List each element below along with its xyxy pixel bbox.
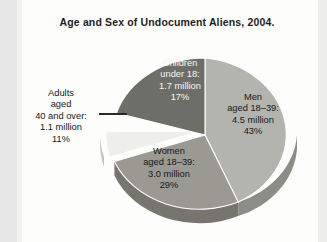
pie-label-women-line-2: aged 18–39: bbox=[124, 157, 214, 168]
pie-label-children-line-4: 17% bbox=[140, 92, 220, 103]
pie-label-children: Children under 18: 1.7 million 17% bbox=[140, 58, 220, 104]
pie-label-men-line-1: Men bbox=[213, 92, 293, 103]
pie-label-adults-line-2: aged bbox=[22, 99, 100, 110]
chart-screenshot: Age and Sex of Undocument Aliens, 2004. … bbox=[0, 0, 327, 242]
pie-label-adults-line-5: 11% bbox=[22, 134, 100, 145]
pie-label-adults-line-3: 40 and over: bbox=[22, 111, 100, 122]
pie-label-men-line-3: 4.5 million bbox=[213, 115, 293, 126]
pie-label-women-line-4: 29% bbox=[124, 180, 214, 191]
adults-leader-line bbox=[99, 113, 127, 115]
pie-label-adults-line-1: Adults bbox=[22, 88, 100, 99]
pie-label-adults-line-4: 1.1 million bbox=[22, 122, 100, 133]
pie-side-adults bbox=[100, 132, 104, 167]
pie-label-children-line-1: Children bbox=[140, 58, 220, 69]
pie-label-women-line-3: 3.0 million bbox=[124, 169, 214, 180]
pie-label-men: Men aged 18–39: 4.5 million 43% bbox=[213, 92, 293, 138]
pie-label-women: Women aged 18–39: 3.0 million 29% bbox=[124, 146, 214, 192]
pie-label-adults: Adults aged 40 and over: 1.1 million 11% bbox=[22, 88, 100, 145]
pie-label-men-line-2: aged 18–39: bbox=[213, 103, 293, 114]
pie-label-men-line-4: 43% bbox=[213, 126, 293, 137]
pie-label-women-line-1: Women bbox=[124, 146, 214, 157]
pie-label-children-line-2: under 18: bbox=[140, 69, 220, 80]
pie-label-children-line-3: 1.7 million bbox=[140, 81, 220, 92]
